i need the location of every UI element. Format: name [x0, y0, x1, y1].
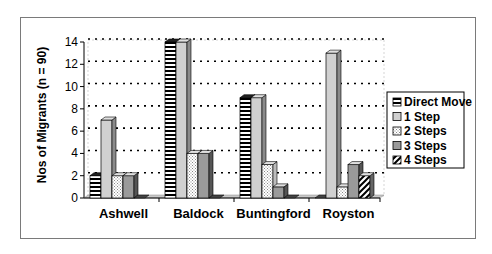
- bar: [359, 173, 374, 198]
- y-axis-label: Nos of Migrants (n = 90): [35, 47, 49, 183]
- legend-swatch: [393, 113, 401, 121]
- y-tick-label: 10: [65, 80, 79, 94]
- bar-chart: 02468101214AshwellBaldockBuntingfordRoys…: [0, 0, 492, 254]
- legend-swatch: [393, 127, 401, 135]
- y-tick-label: 8: [71, 102, 78, 116]
- x-category-label: Ashwell: [99, 206, 148, 221]
- legend-swatch: [393, 98, 401, 106]
- legend-item-label: 3 Steps: [404, 139, 447, 153]
- y-tick-label: 14: [65, 35, 79, 49]
- plot-area: 02468101214AshwellBaldockBuntingfordRoys…: [65, 35, 384, 221]
- x-category-label: Baldock: [173, 206, 224, 221]
- x-category-label: Buntingford: [236, 206, 310, 221]
- y-tick-label: 2: [71, 169, 78, 183]
- y-tick-label: 12: [65, 57, 79, 71]
- y-tick-label: 4: [71, 146, 78, 160]
- legend-item-label: 4 Steps: [404, 153, 447, 167]
- legend-swatch: [393, 156, 401, 164]
- legend-swatch: [393, 142, 401, 150]
- bar: [326, 50, 341, 198]
- legend-item-label: Direct Move: [404, 95, 472, 109]
- legend-item-label: 2 Steps: [404, 124, 447, 138]
- bar: [123, 173, 138, 198]
- y-tick-label: 6: [71, 124, 78, 138]
- x-category-label: Royston: [323, 206, 375, 221]
- legend-item-label: 1 Step: [404, 110, 440, 124]
- y-tick-label: 0: [71, 191, 78, 205]
- bar: [198, 150, 213, 198]
- legend: Direct Move1 Step2 Steps3 Steps4 Steps: [387, 92, 472, 168]
- bar: [273, 184, 288, 198]
